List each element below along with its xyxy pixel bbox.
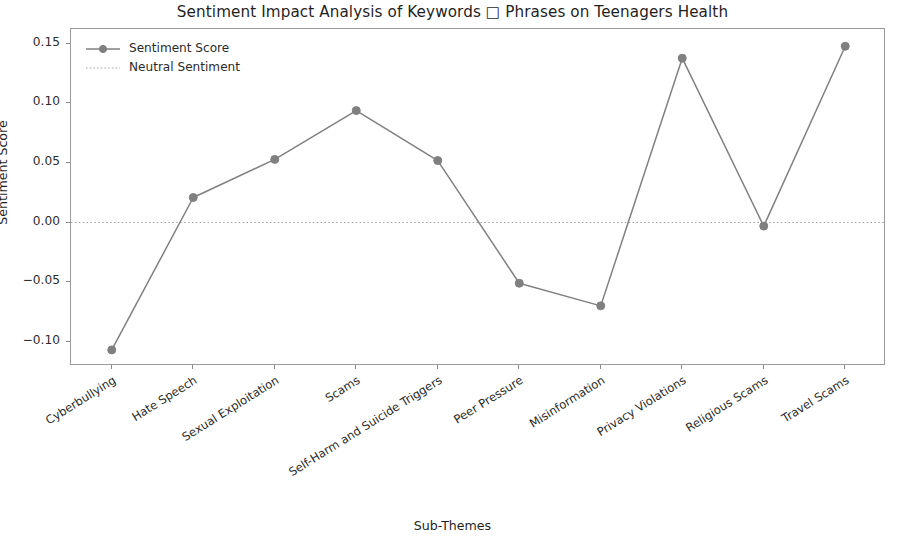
y-axis-ticks: 0.150.100.050.00−0.05−0.10	[0, 28, 70, 365]
sentiment-score-markers	[108, 42, 850, 354]
data-point	[434, 157, 442, 165]
plot-svg	[71, 29, 886, 366]
data-point	[515, 279, 523, 287]
data-point	[760, 222, 768, 230]
y-tick-label: 0.10	[4, 94, 60, 108]
plot-area: Sentiment Score Neutral Sentiment	[70, 28, 885, 365]
y-tick-label: 0.00	[4, 214, 60, 228]
data-point	[597, 302, 605, 310]
chart-legend: Sentiment Score Neutral Sentiment	[83, 37, 244, 77]
x-axis-tick-labels: CyberbullyingHate SpeechSexual Exploitat…	[0, 365, 905, 495]
y-tick-label: 0.05	[4, 154, 60, 168]
data-point	[841, 42, 849, 50]
legend-label-neutral-sentiment: Neutral Sentiment	[129, 60, 240, 74]
y-tick-label: 0.15	[4, 35, 60, 49]
legend-line-marker-icon	[85, 41, 121, 55]
chart-figure: Sentiment Impact Analysis of Keywords □ …	[0, 0, 905, 549]
chart-title: Sentiment Impact Analysis of Keywords □ …	[0, 3, 905, 21]
data-point	[271, 155, 279, 163]
y-tick-label: −0.10	[4, 333, 60, 347]
sentiment-score-line	[112, 46, 846, 350]
legend-item-neutral-sentiment: Neutral Sentiment	[85, 57, 240, 76]
data-point	[678, 54, 686, 62]
data-point	[189, 194, 197, 202]
data-point	[352, 107, 360, 115]
data-point	[108, 346, 116, 354]
legend-label-sentiment-score: Sentiment Score	[129, 41, 229, 55]
legend-item-sentiment-score: Sentiment Score	[85, 38, 240, 57]
x-axis-label: Sub-Themes	[0, 518, 905, 533]
legend-dotted-line-icon	[85, 60, 121, 74]
y-tick-label: −0.05	[4, 273, 60, 287]
